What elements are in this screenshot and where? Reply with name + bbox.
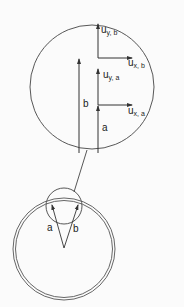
- double-ring: [13, 198, 115, 300]
- label-uy-b: uy, b: [101, 24, 117, 37]
- ring-vector-a: [52, 205, 64, 248]
- label-uy-a: uy, a: [103, 69, 119, 82]
- connector-line: [74, 150, 87, 192]
- label-a: a: [102, 122, 108, 133]
- diagram-canvas: b a uy, b ux, b uy, a ux, a a b: [0, 0, 184, 307]
- label-b: b: [83, 98, 89, 109]
- zoom-indicator-circle: [46, 188, 82, 224]
- ring-label-a: a: [47, 222, 53, 233]
- label-ux-b: ux, b: [128, 57, 145, 69]
- magnified-circle: [30, 25, 154, 149]
- ring-label-b: b: [73, 223, 79, 234]
- label-ux-a: ux, a: [128, 105, 145, 117]
